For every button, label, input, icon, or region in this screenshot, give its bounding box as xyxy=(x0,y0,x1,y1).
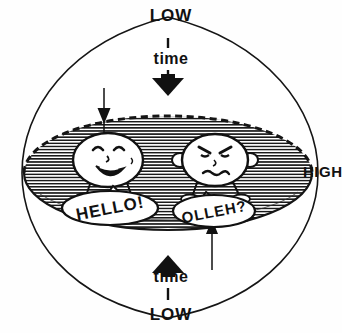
figure-canvas: HELLO! OLLEH? LOW time time LOW HIGH xyxy=(0,0,342,333)
label-time-bottom: time xyxy=(0,268,342,286)
label-low-top: LOW xyxy=(0,6,342,26)
label-time-top: time xyxy=(0,50,342,68)
label-high-right: HIGH xyxy=(303,163,342,180)
label-low-bottom: LOW xyxy=(0,305,342,325)
